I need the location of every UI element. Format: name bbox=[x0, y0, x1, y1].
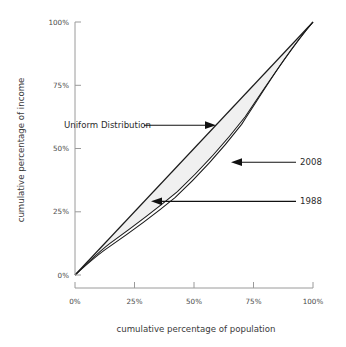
lorenz-curve-chart: 100% 75% 50% 25% 0% 0% 25% 50% 75% 100% … bbox=[0, 0, 346, 347]
annotation-label-uniform-distribution: Uniform Distribution bbox=[64, 120, 151, 130]
x-tick-label-100: 100% bbox=[303, 297, 324, 306]
x-axis-title: cumulative percentage of population bbox=[117, 324, 276, 334]
chart-svg: 100% 75% 50% 25% 0% 0% 25% 50% 75% 100% … bbox=[0, 0, 346, 347]
x-tick-label-75: 75% bbox=[246, 297, 262, 306]
annotation-label-2008: 2008 bbox=[300, 157, 322, 167]
y-tick-label-50: 50% bbox=[53, 144, 69, 153]
x-tick-label-50: 50% bbox=[186, 297, 202, 306]
y-tick-label-75: 75% bbox=[53, 81, 69, 90]
annotation-label-1988: 1988 bbox=[300, 196, 322, 206]
y-tick-label-25: 25% bbox=[53, 207, 69, 216]
uniform-distribution-line bbox=[75, 22, 313, 275]
x-tick-label-0: 0% bbox=[69, 297, 81, 306]
y-tick-label-100: 100% bbox=[48, 18, 69, 27]
y-tick-label-0: 0% bbox=[58, 271, 70, 280]
annotation-arrowhead-2008 bbox=[231, 158, 242, 166]
x-tick-label-25: 25% bbox=[127, 297, 143, 306]
y-axis-title: cumulative percentage of income bbox=[16, 78, 26, 223]
